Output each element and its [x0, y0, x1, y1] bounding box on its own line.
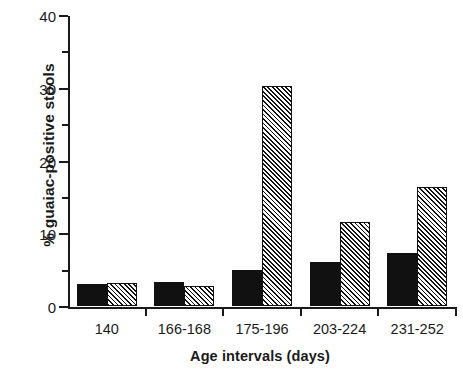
- y-tick-minor: [62, 197, 68, 199]
- y-tick-10: [59, 233, 68, 235]
- bar: [340, 222, 370, 306]
- y-tick-40: [59, 15, 68, 17]
- plot-area: 010203040 140166-168175-196203-224231-25…: [68, 16, 456, 307]
- x-tick: [222, 307, 224, 316]
- bar-chart-figure: % guaiac-positive stools 010203040 14016…: [0, 0, 463, 372]
- y-tick-20: [59, 161, 68, 163]
- x-axis-title: Age intervals (days): [60, 348, 460, 364]
- x-tick: [455, 307, 457, 316]
- bar: [387, 253, 417, 306]
- x-tick: [377, 307, 379, 316]
- x-tick-label: 166-168: [158, 321, 211, 337]
- x-tick: [300, 307, 302, 316]
- bar: [154, 282, 184, 306]
- y-tick-label: 20: [39, 153, 56, 170]
- y-tick-minor: [62, 124, 68, 126]
- bar: [184, 286, 214, 306]
- bar: [310, 262, 340, 306]
- y-tick-30: [59, 88, 68, 90]
- bar: [232, 270, 262, 306]
- x-tick-label: 175-196: [235, 321, 288, 337]
- bar: [417, 187, 447, 306]
- y-tick-0: [59, 306, 68, 308]
- y-tick-label: 0: [48, 299, 56, 316]
- x-tick: [145, 307, 147, 316]
- y-tick-label: 30: [39, 80, 56, 97]
- y-axis-line: [68, 16, 70, 308]
- y-tick-label: 40: [39, 8, 56, 25]
- x-tick-label: 203-224: [313, 321, 366, 337]
- x-tick-label: 231-252: [391, 321, 444, 337]
- bar: [262, 86, 292, 306]
- y-tick-label: 10: [39, 226, 56, 243]
- x-axis-line: [68, 307, 457, 309]
- y-tick-minor: [62, 51, 68, 53]
- x-tick-label: 140: [95, 321, 119, 337]
- y-tick-minor: [62, 270, 68, 272]
- bar: [107, 283, 137, 306]
- bar: [77, 284, 107, 306]
